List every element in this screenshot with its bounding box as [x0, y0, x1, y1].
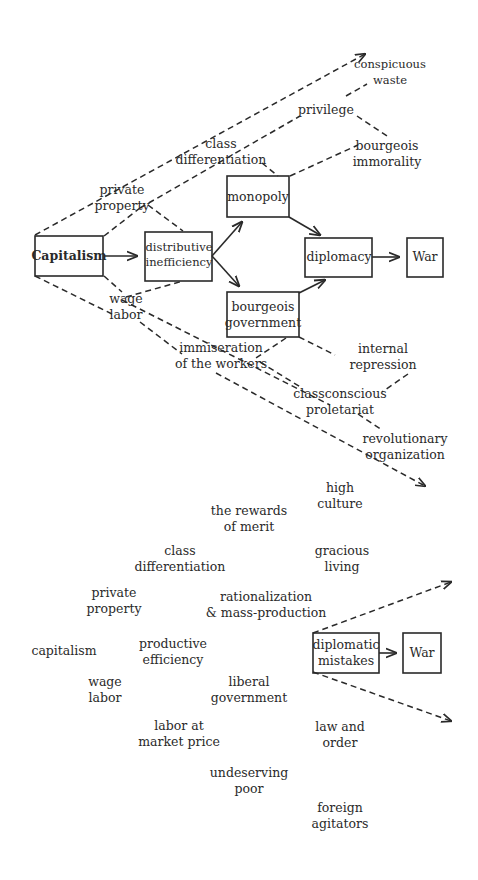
label-war-lower: War: [409, 645, 434, 661]
dashed-privilege-to-immorality: [357, 116, 387, 136]
label-line: organization: [362, 447, 447, 463]
dashed-capitalism-to-wage: [104, 276, 122, 292]
label-line: government: [225, 315, 301, 331]
label-line: bourgeois: [353, 138, 422, 154]
dashed-capitalism-to-wagelabor: [35, 276, 112, 314]
label-line: revolutionary: [362, 431, 447, 447]
label-gracious-living: gracious living: [315, 543, 369, 575]
label-line: private: [87, 585, 142, 601]
label-immiseration: immiseration of the workers: [175, 340, 267, 372]
label-distributive-inefficiency: distributive inefficiency: [145, 240, 212, 270]
label-line: gracious: [315, 543, 369, 559]
label-class-differentiation-lower: class differentiation: [135, 543, 226, 575]
label-line: the rewards: [211, 503, 287, 519]
label-diplomacy: diplomacy: [307, 249, 372, 265]
label-line: waste: [354, 72, 426, 88]
label-line: of merit: [211, 519, 287, 535]
label-revolutionary-organization: revolutionary organization: [362, 431, 447, 463]
label-line: wage: [109, 291, 143, 307]
label-wage-labor: wage labor: [109, 291, 143, 323]
label-capitalism-lower: capitalism: [31, 643, 96, 659]
label-line: internal: [349, 341, 416, 357]
label-rewards-of-merit: the rewards of merit: [211, 503, 287, 535]
label-line: efficiency: [139, 652, 207, 668]
arrow-distributive-to-government: [212, 256, 239, 286]
label-line: liberal: [211, 674, 287, 690]
label-line: inefficiency: [145, 255, 212, 270]
label-line: law and: [315, 719, 365, 735]
label-line: labor: [109, 307, 143, 323]
label-private-property-lower: private property: [87, 585, 142, 617]
label-line: distributive: [145, 240, 212, 255]
label-diplomatic-mistakes: diplomatic mistakes: [313, 637, 380, 669]
label-line: foreign: [312, 800, 369, 816]
label-labor-at-market-price: labor at market price: [138, 718, 220, 750]
label-line: culture: [317, 496, 363, 512]
dashed-arrow-lower-down: [313, 672, 451, 721]
label-private-property: private property: [95, 182, 150, 214]
label-line: rationalization: [206, 589, 327, 605]
label-bourgeois-immorality: bourgeois immorality: [353, 138, 422, 170]
label-monopoly: monopoly: [227, 189, 289, 205]
arrow-government-to-diplomacy: [299, 280, 325, 293]
label-line: bourgeois: [225, 299, 301, 315]
label-line: & mass-production: [206, 605, 327, 621]
label-undeserving-poor: undeserving poor: [210, 765, 288, 797]
label-line: immorality: [353, 154, 422, 170]
label-capitalism-box: Capitalism: [31, 248, 106, 264]
arrow-distributive-to-monopoly: [212, 222, 242, 256]
label-foreign-agitators: foreign agitators: [312, 800, 369, 832]
label-line: property: [95, 198, 150, 214]
label-line: market price: [138, 734, 220, 750]
label-line: repression: [349, 357, 416, 373]
label-line: proletariat: [293, 402, 386, 418]
label-line: labor: [88, 690, 122, 706]
label-line: productive: [139, 636, 207, 652]
label-line: poor: [210, 781, 288, 797]
label-high-culture: high culture: [317, 480, 363, 512]
label-line: agitators: [312, 816, 369, 832]
arrow-monopoly-to-diplomacy: [289, 217, 320, 235]
label-line: differentiation: [176, 152, 267, 168]
label-class-differentiation: class differentiation: [176, 136, 267, 168]
label-productive-efficiency: productive efficiency: [139, 636, 207, 668]
label-internal-repression: internal repression: [349, 341, 416, 373]
label-privilege: privilege: [298, 102, 354, 118]
label-line: class: [176, 136, 267, 152]
label-line: private: [95, 182, 150, 198]
label-line: undeserving: [210, 765, 288, 781]
label-classconscious-proletariat: classconscious proletariat: [293, 386, 386, 418]
label-line: living: [315, 559, 369, 575]
label-conspicuous-waste: conspicuous waste: [354, 56, 426, 88]
label-rationalization: rationalization & mass-production: [206, 589, 327, 621]
label-line: order: [315, 735, 365, 751]
label-bourgeois-government: bourgeois government: [225, 299, 301, 331]
dashed-property-to-distributive: [148, 205, 183, 231]
label-law-and-order: law and order: [315, 719, 365, 751]
label-line: labor at: [138, 718, 220, 734]
dashed-arrow-lower-up: [313, 582, 451, 633]
label-line: differentiation: [135, 559, 226, 575]
label-line: property: [87, 601, 142, 617]
label-line: classconscious: [293, 386, 386, 402]
label-line: class: [135, 543, 226, 559]
label-line: government: [211, 690, 287, 706]
label-wage-labor-lower: wage labor: [88, 674, 122, 706]
dashed-monopoly-to-immorality: [290, 145, 358, 176]
label-line: high: [317, 480, 363, 496]
label-line: conspicuous: [354, 56, 426, 72]
label-war: War: [412, 249, 437, 265]
label-line: immiseration: [175, 340, 267, 356]
label-line: wage: [88, 674, 122, 690]
label-line: diplomatic: [313, 637, 380, 653]
label-line: of the workers: [175, 356, 267, 372]
label-line: mistakes: [313, 653, 380, 669]
label-liberal-government: liberal government: [211, 674, 287, 706]
dashed-government-to-repression: [299, 337, 335, 355]
